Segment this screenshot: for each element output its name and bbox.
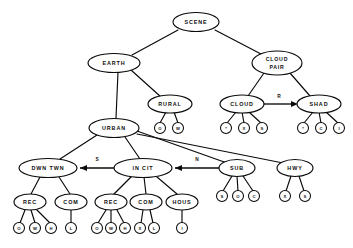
edge-label-right: R (277, 94, 281, 99)
leaf-node-label: W (176, 126, 180, 131)
relation-south-arrowhead (80, 165, 87, 171)
label-sub: SUB (230, 165, 244, 171)
edge-urban-dwntwn (60, 135, 97, 159)
edge-label-north: N (195, 157, 199, 162)
leaf-node-label: S (304, 194, 307, 199)
leaf-node-label: S (221, 194, 224, 199)
leaf-node-label: C (319, 126, 322, 131)
leaf-node-label: X (139, 226, 142, 231)
leaf-node-label: X (243, 126, 246, 131)
label-in-cit: IN CIT (133, 165, 154, 171)
edge-incit-com (144, 177, 146, 194)
label-shad: SHAD (310, 101, 329, 107)
edge-urban-sub (137, 131, 227, 163)
label-earth: EARTH (102, 60, 125, 66)
leaf-node-label: W (109, 226, 113, 231)
edge-scene-cloudpair (215, 30, 261, 54)
relation-north-arrowhead (175, 165, 182, 171)
leaf-node-label: C (252, 194, 255, 199)
label-rural: RURAL (158, 101, 181, 107)
leaf-node-label: X (284, 194, 287, 199)
label-scene: SCENE (184, 19, 207, 25)
edge-label-south: S (95, 157, 99, 162)
label-com-incity: COM (138, 199, 153, 205)
oval-nodes (14, 13, 341, 211)
label-hwy: HWY (287, 165, 302, 171)
label-dwn-twn: DWN TWN (32, 165, 65, 171)
leaf-node-label: L (153, 226, 156, 231)
leaf-node-label: W (33, 226, 37, 231)
scene-tree-svg: SHAD --> SCENE EARTH CLOUD PAIR RURAL CL… (0, 0, 353, 248)
diagram-canvas: SHAD --> SCENE EARTH CLOUD PAIR RURAL CL… (0, 0, 353, 248)
edge-earth-rural (131, 70, 161, 97)
leaf-node-label: H (49, 226, 52, 231)
label-urban: URBAN (102, 125, 126, 131)
leaf-node-label: L (70, 226, 73, 231)
label-cloud: CLOUD (230, 101, 254, 107)
leaf-node-label: H (123, 226, 126, 231)
label-cloud-pair-1: CLOUD (266, 56, 288, 62)
label-hous: HOUS (172, 199, 191, 205)
edge-scene-earth (132, 30, 178, 55)
edge-urban-hwy (137, 134, 283, 163)
edge-earth-urban (116, 72, 118, 118)
leaf-node-label: I (338, 126, 339, 131)
edge-incit-hous (157, 177, 177, 194)
node-cloud-pair[interactable] (252, 51, 302, 75)
edge-cloudpair-cloud (248, 73, 264, 96)
edge-dwntwn-com (59, 177, 70, 194)
edge-cloudpair-shad (290, 73, 310, 96)
edge-dwntwn-rec (31, 177, 40, 194)
edge-incit-rec (114, 177, 131, 194)
leaf-node-label: S (261, 126, 264, 131)
label-rec-downtown: REC (23, 199, 37, 205)
label-rec-incity: REC (104, 199, 118, 205)
label-com-downtown: COM (63, 199, 78, 205)
leaf-nodes: OW*XS*CISOCXSOWHLOWHXLI (14, 123, 345, 234)
edge-urban-incit (125, 137, 140, 159)
label-cloud-pair-2: PAIR (269, 64, 284, 70)
leaf-node-label: I (181, 226, 182, 231)
